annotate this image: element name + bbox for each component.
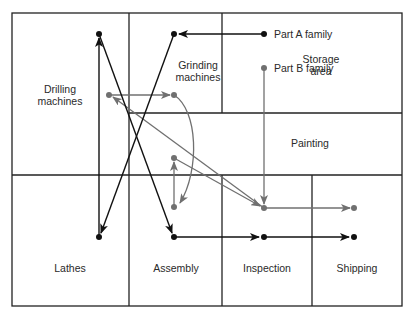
node-a-lathes bbox=[96, 234, 102, 240]
node-b-shipping bbox=[351, 205, 357, 211]
area-label-drilling: Drilling machines bbox=[30, 83, 90, 107]
area-label-shipping: Shipping bbox=[327, 262, 387, 274]
node-b-drilling bbox=[106, 92, 112, 98]
grinding-label-line1: Grinding bbox=[168, 59, 228, 71]
part-a-family-label: Part A family bbox=[274, 28, 332, 40]
area-label-painting: Painting bbox=[280, 137, 340, 149]
area-label-inspection: Inspection bbox=[237, 262, 297, 274]
node-b-storage bbox=[261, 65, 267, 71]
area-label-assembly: Assembly bbox=[146, 262, 206, 274]
node-a-assembly bbox=[171, 234, 177, 240]
node-a-storage bbox=[261, 31, 267, 37]
node-a-shipping bbox=[351, 234, 357, 240]
drilling-label-line1: Drilling bbox=[30, 83, 90, 95]
drilling-label-line2: machines bbox=[30, 95, 90, 107]
node-b-painting-top bbox=[171, 155, 177, 161]
node-a-grinding bbox=[171, 31, 177, 37]
grinding-label-line2: machines bbox=[168, 71, 228, 83]
node-b-painting-bottom bbox=[171, 204, 177, 210]
area-label-grinding: Grinding machines bbox=[168, 59, 228, 83]
flow-a-drilling-to-assembly bbox=[99, 34, 172, 233]
node-b-grinding bbox=[171, 92, 177, 98]
node-a-drilling bbox=[96, 31, 102, 37]
area-label-lathes: Lathes bbox=[40, 262, 100, 274]
node-b-inspection bbox=[261, 205, 267, 211]
node-a-inspection bbox=[261, 234, 267, 240]
flow-b-painting-to-inspection bbox=[174, 158, 260, 206]
part-b-family-label: Part B family bbox=[274, 62, 334, 74]
